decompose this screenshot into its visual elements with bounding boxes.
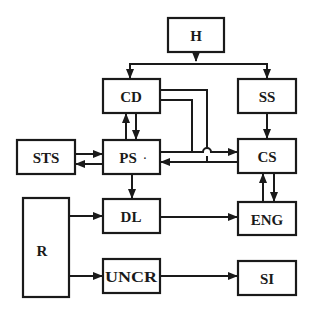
block-h: H bbox=[168, 18, 224, 52]
block-eng: ENG bbox=[238, 202, 296, 235]
line-cd-inner-to-cs bbox=[160, 100, 192, 152]
block-cd: CD bbox=[103, 79, 160, 113]
block-cd-label: CD bbox=[120, 89, 142, 105]
block-dl-label: DL bbox=[121, 209, 142, 225]
block-diagram: H CD SS STS PS · CS DL ENG R UNCR SI bbox=[0, 0, 312, 313]
block-cs: CS bbox=[238, 139, 296, 173]
block-cs-label: CS bbox=[257, 149, 276, 165]
block-sts-label: STS bbox=[33, 150, 60, 166]
block-ps-dot: · bbox=[143, 153, 146, 164]
block-dl: DL bbox=[103, 199, 160, 233]
block-r-label: R bbox=[37, 243, 48, 259]
block-ps: PS · bbox=[103, 140, 160, 174]
line-cd-outer-to-return bbox=[160, 90, 207, 148]
block-ps-label: PS bbox=[119, 150, 137, 166]
block-ss: SS bbox=[238, 79, 296, 113]
block-si: SI bbox=[238, 261, 296, 295]
block-uncr-label: UNCR bbox=[105, 270, 158, 285]
block-h-label: H bbox=[190, 28, 202, 44]
block-r: R bbox=[23, 198, 69, 297]
block-si-label: SI bbox=[260, 271, 274, 287]
block-sts: STS bbox=[17, 140, 75, 174]
block-uncr: UNCR bbox=[103, 259, 160, 293]
block-eng-label: ENG bbox=[251, 212, 284, 228]
block-ss-label: SS bbox=[259, 89, 276, 105]
arrow-ps-to-cs bbox=[160, 148, 237, 152]
